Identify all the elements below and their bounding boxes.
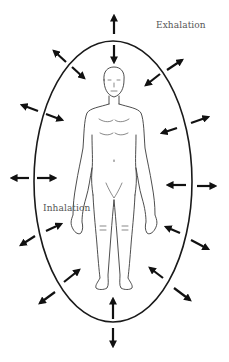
arrow-upperleft-out-icon: [22, 105, 38, 111]
arrow-lowerleft-out-icon: [21, 236, 35, 245]
arrow-topright-out-icon: [167, 60, 182, 70]
exhalation-label: Exhalation: [156, 20, 206, 30]
arrow-bottomright-out-icon: [174, 288, 190, 300]
figure-left-arm: [71, 104, 109, 234]
arrow-bottomleft-out-icon: [40, 292, 55, 303]
arrow-topleft-out-icon: [54, 51, 66, 62]
arrow-bottomleft-in-icon: [64, 270, 79, 282]
arrow-bottomright-in-icon: [150, 268, 163, 278]
arrow-upperright-out-icon: [191, 117, 208, 123]
arrow-lowerright-out-icon: [191, 240, 208, 249]
arrow-lowerleft-in-icon: [46, 224, 61, 231]
human-figure: [71, 67, 157, 290]
arrow-topright-in-icon: [146, 74, 160, 85]
aura-ellipse: [34, 41, 192, 322]
figure-right-arm: [119, 104, 157, 234]
arrow-upperleft-in-icon: [46, 114, 62, 120]
breathing-aura-diagram: Exhalation Inhalation: [0, 0, 229, 362]
figure-right-leg: [114, 195, 135, 290]
arrow-upperright-in-icon: [162, 128, 177, 133]
figure-head: [104, 67, 124, 97]
arrow-topleft-in-icon: [72, 67, 84, 78]
arrows: [12, 16, 215, 346]
figure-left-leg: [93, 195, 114, 290]
diagram-canvas: [0, 0, 229, 362]
arrow-lowerright-in-icon: [166, 227, 180, 233]
inhalation-label: Inhalation: [43, 203, 90, 213]
